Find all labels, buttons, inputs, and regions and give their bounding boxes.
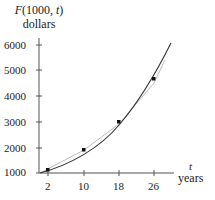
growth-curve (40, 43, 171, 173)
plot-area (0, 0, 215, 200)
data-points (46, 77, 156, 172)
secant-line (40, 60, 165, 173)
